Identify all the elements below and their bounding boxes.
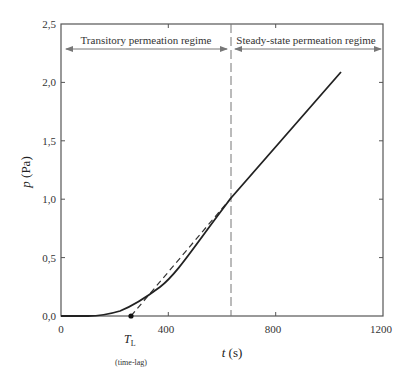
x-tick-label: 0 (58, 323, 64, 335)
x-tick-label: 1200 (370, 323, 393, 335)
steady-label: Steady-state permeation regime (236, 34, 375, 46)
svg-text:p (Pa): p (Pa) (18, 156, 33, 188)
x-tick-label: 400 (158, 323, 175, 335)
y-tick-label: 1,5 (42, 135, 56, 147)
x-ticks (168, 24, 275, 316)
time-lag-point (128, 313, 133, 318)
time-lag-symbol: TL (124, 332, 136, 348)
x-axis-title: t (s) (222, 345, 243, 360)
pressure-curve (61, 72, 341, 316)
x-tick-label: 800 (265, 323, 282, 335)
y-axis-title: p (Pa) (18, 156, 33, 188)
y-tick-label: 2,5 (42, 18, 56, 30)
y-tick-label: 0,0 (42, 310, 56, 322)
plot-frame (61, 24, 383, 316)
y-tick-label: 0,5 (42, 252, 56, 264)
time-lag-note: (time-lag) (115, 358, 147, 367)
extrapolation-line (131, 198, 231, 316)
y-tick-label: 1,0 (42, 193, 56, 205)
y-tick-label: 2,0 (42, 76, 56, 88)
y-ticks (61, 82, 383, 257)
permeation-chart: 0,0 0,5 1,0 1,5 2,0 2,5 0 400 800 1200 p… (0, 0, 410, 376)
transitory-label: Transitory permeation regime (81, 34, 212, 46)
